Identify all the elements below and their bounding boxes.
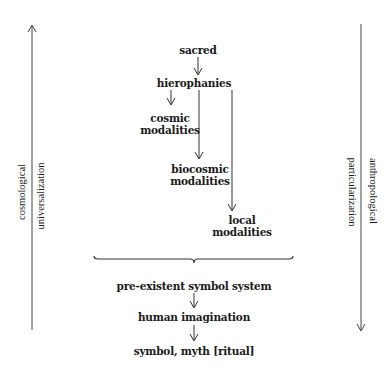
node-human-imagination: human imagination — [134, 311, 254, 323]
right-axis-label-anthropological: anthropological — [367, 151, 379, 231]
right-axis-arrow — [357, 24, 365, 331]
arrow-hierophanies-to-local — [228, 90, 236, 211]
node-local-modalities: local modalities — [210, 214, 274, 238]
node-cosmic-line2: modalities — [140, 124, 200, 136]
arrow-imagination-to-output — [190, 325, 198, 341]
left-axis-label-cosmological: cosmological — [16, 152, 28, 232]
node-biocosmic-modalities: biocosmic modalities — [168, 163, 232, 187]
node-sacred: sacred — [168, 44, 228, 56]
node-symbol-system: pre-existent symbol system — [114, 280, 274, 292]
left-axis-label-universalization: universalization — [35, 156, 47, 236]
node-symbol-myth-ritual: symbol, myth [ritual] — [124, 345, 264, 357]
grouping-brace — [94, 256, 293, 263]
node-hierophanies: hierophanies — [154, 77, 234, 89]
right-axis-label-particularization: particularization — [346, 152, 358, 232]
arrow-sacred-to-hierophanies — [194, 57, 202, 75]
node-biocosmic-line1: biocosmic — [168, 163, 232, 175]
arrow-hierophanies-to-cosmic — [167, 90, 175, 105]
node-cosmic-line1: cosmic — [140, 112, 200, 124]
node-biocosmic-line2: modalities — [168, 175, 232, 187]
node-cosmic-modalities: cosmic modalities — [140, 112, 200, 136]
node-local-line1: local — [210, 214, 274, 226]
node-local-line2: modalities — [210, 226, 274, 238]
arrow-symbol-system-to-imagination — [190, 293, 198, 308]
